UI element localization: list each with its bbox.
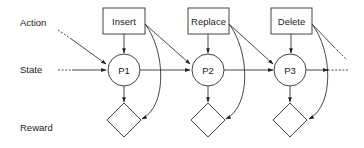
row-label-state: State xyxy=(20,64,42,75)
action-node-replace-label: Replace xyxy=(191,16,226,27)
edge-insert-to-reward-1 xyxy=(142,24,161,119)
column-2: Replace P2 xyxy=(188,8,273,137)
edge-replace-to-p3 xyxy=(229,24,273,64)
incoming-action-edge-dashed xyxy=(58,30,70,38)
state-node-p3-label: P3 xyxy=(284,65,296,76)
action-node-insert-label: Insert xyxy=(112,16,136,27)
row-label-reward: Reward xyxy=(20,122,53,133)
incoming-action-edge xyxy=(70,38,106,64)
edge-delete-to-reward-3 xyxy=(309,24,328,119)
action-node-delete-label: Delete xyxy=(278,16,305,27)
state-node-p1-label: P1 xyxy=(118,65,130,76)
reward-node-3 xyxy=(273,103,307,137)
column-1: Insert P1 xyxy=(103,8,190,137)
column-3: Delete P3 xyxy=(271,8,349,137)
reward-node-1 xyxy=(107,103,141,137)
outgoing-action-edge-dashed xyxy=(334,47,347,60)
row-label-action: Action xyxy=(20,17,46,28)
influence-diagram: Action State Reward Insert P1 Replace P2 xyxy=(0,0,364,148)
edge-insert-to-p2 xyxy=(145,24,190,64)
edge-replace-to-reward-2 xyxy=(226,24,245,119)
outgoing-action-edge xyxy=(312,24,334,47)
reward-node-2 xyxy=(191,103,225,137)
state-node-p2-label: P2 xyxy=(202,65,214,76)
